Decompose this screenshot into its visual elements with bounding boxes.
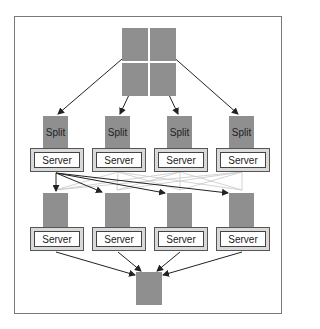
intermediate-block [167, 193, 192, 228]
map-server: Server [92, 148, 146, 172]
server-label: Server [220, 152, 266, 168]
intermediate-block [229, 193, 254, 228]
server-label: Server [158, 152, 204, 168]
split-label: Split [105, 127, 130, 138]
reduce-server: Server [92, 227, 146, 251]
output-data [136, 272, 162, 305]
split-label: Split [229, 127, 254, 138]
server-label: Server [96, 152, 142, 168]
split-block: Split [43, 116, 68, 148]
map-server: Server [154, 148, 208, 172]
reduce-server: Server [216, 227, 270, 251]
input-tile [122, 28, 148, 61]
split-block: Split [167, 116, 192, 148]
server-label: Server [158, 231, 204, 247]
split-block: Split [105, 116, 130, 148]
input-tile [150, 63, 176, 96]
split-label: Split [43, 127, 68, 138]
map-server: Server [30, 148, 84, 172]
input-tile [150, 28, 176, 61]
intermediate-block [105, 193, 130, 228]
server-label: Server [34, 231, 80, 247]
input-to-split-arrows [58, 47, 238, 114]
map-server: Server [216, 148, 270, 172]
split-block: Split [229, 116, 254, 148]
intermediate-block [43, 193, 68, 228]
reduce-server: Server [30, 227, 84, 251]
reduce-server: Server [154, 227, 208, 251]
server-label: Server [220, 231, 266, 247]
server-label: Server [34, 152, 80, 168]
split-label: Split [167, 127, 192, 138]
server-label: Server [96, 231, 142, 247]
shuffle-lines [55, 172, 242, 190]
input-tile [122, 63, 148, 96]
